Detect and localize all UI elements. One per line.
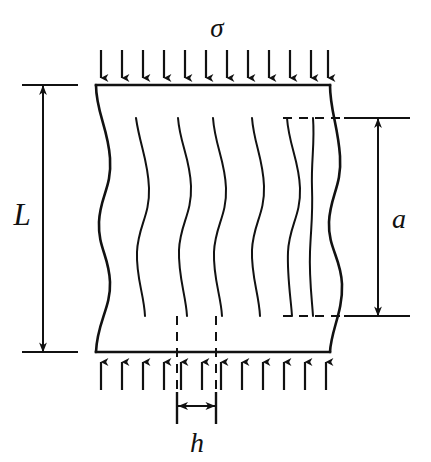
specimen-left-wavy-edge: [96, 85, 110, 352]
diagram-canvas: L a h σ: [0, 0, 431, 462]
top-load-arrows: [101, 50, 328, 78]
bottom-reaction-arrows: [101, 362, 326, 390]
grain-boundary-curve: [310, 118, 314, 316]
grain-boundary-curve: [287, 118, 300, 316]
specimen-body: [96, 85, 342, 352]
grain-boundary-curve: [178, 118, 191, 316]
grain-boundary-curves: [136, 118, 314, 316]
a-dimension-label: a: [392, 203, 406, 234]
grain-boundary-curve: [136, 118, 149, 316]
grain-boundary-curve: [252, 118, 264, 316]
sigma-stress-label: σ: [210, 13, 225, 43]
grain-boundary-curve: [213, 118, 226, 316]
dimension-L: L: [12, 85, 78, 352]
figure-root: L a h σ: [0, 0, 431, 462]
dimension-a: a: [283, 118, 410, 316]
h-dimension-label: h: [190, 427, 204, 458]
dimension-h: h: [177, 316, 216, 458]
specimen-right-wavy-edge: [329, 85, 342, 352]
L-dimension-label: L: [12, 197, 30, 232]
